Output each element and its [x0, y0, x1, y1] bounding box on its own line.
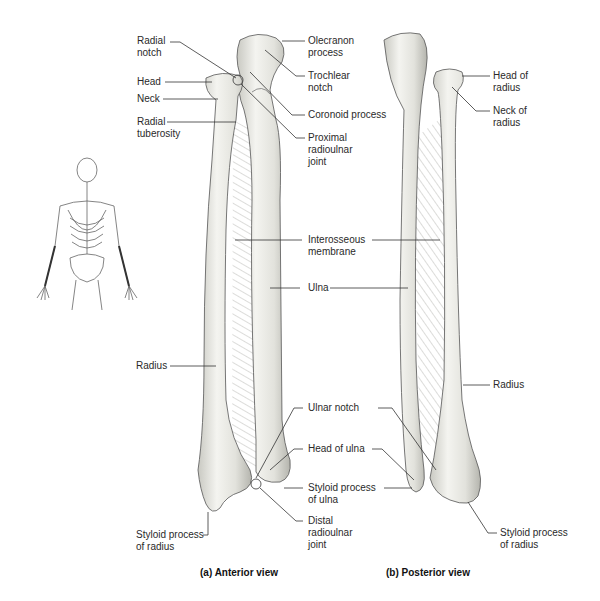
label-head-of-radius: Head of radius: [493, 70, 528, 94]
label-trochlear-notch: Trochlear notch: [308, 70, 350, 94]
label-olecranon-process: Olecranon process: [308, 35, 354, 59]
label-head: Head: [137, 76, 161, 88]
label-head-of-ulna: Head of ulna: [308, 443, 365, 455]
label-proximal-radioulnar-joint: Proximal radioulnar joint: [308, 132, 352, 168]
label-neck: Neck: [137, 93, 160, 105]
label-styloid-process-of-ulna: Styloid process of ulna: [308, 482, 376, 506]
skeleton-icon: [37, 158, 137, 310]
label-radial-notch: Radial notch: [137, 35, 165, 59]
label-neck-of-radius: Neck of radius: [493, 105, 527, 129]
label-radius-anterior: Radius: [136, 360, 167, 372]
caption-posterior-view: (b) Posterior view: [386, 567, 470, 578]
label-styloid-process-of-radius-anterior: Styloid process of radius: [136, 529, 204, 553]
label-ulnar-notch: Ulnar notch: [308, 402, 359, 414]
label-styloid-process-of-radius-posterior: Styloid process of radius: [500, 527, 568, 551]
label-distal-radioulnar-joint: Distal radioulnar joint: [308, 515, 352, 551]
label-radius-posterior: Radius: [493, 379, 524, 391]
label-radial-tuberosity: Radial tuberosity: [137, 116, 180, 140]
caption-anterior-view: (a) Anterior view: [200, 567, 278, 578]
posterior-view-drawing: [384, 33, 481, 503]
label-coronoid-process: Coronoid process: [308, 109, 386, 121]
label-interosseous-membrane: Interosseous membrane: [308, 234, 365, 258]
label-ulna: Ulna: [308, 282, 329, 294]
